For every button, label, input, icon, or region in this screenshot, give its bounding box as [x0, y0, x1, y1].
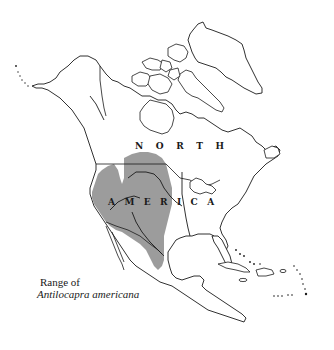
- jamaica: [239, 278, 247, 281]
- label-letter: T: [196, 141, 203, 151]
- lesser-antilles-dots: [273, 265, 307, 297]
- label-letter: R: [160, 197, 167, 207]
- label-letter: C: [191, 197, 198, 207]
- legend-line-1: Range of: [40, 276, 139, 288]
- aleutian-islands: [15, 65, 29, 87]
- label-letter: A: [108, 197, 115, 207]
- hispaniola: [256, 268, 274, 276]
- bahamas-dots: [235, 249, 261, 265]
- label-america: A M E R I C A: [108, 197, 214, 207]
- label-letter: M: [124, 197, 134, 207]
- label-letter: N: [135, 141, 143, 151]
- victoria-island: [148, 74, 172, 94]
- label-north: N O R T H: [135, 141, 224, 151]
- label-letter: E: [144, 197, 151, 207]
- legend-species-name: Antilocapra americana: [37, 288, 139, 300]
- baffin-island: [178, 70, 224, 112]
- label-letter: A: [207, 197, 214, 207]
- label-letter: H: [215, 141, 224, 151]
- cuba: [218, 262, 250, 272]
- puerto-rico: [280, 269, 286, 272]
- label-letter: R: [176, 141, 183, 151]
- label-letter: O: [156, 141, 164, 151]
- map-legend: Range of Antilocapra americana: [37, 276, 139, 300]
- label-letter: I: [177, 197, 181, 207]
- ellesmere-island: [168, 44, 188, 62]
